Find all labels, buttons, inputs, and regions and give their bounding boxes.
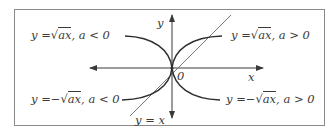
label-lhs: y =: [226, 92, 246, 106]
label-sign: −: [51, 92, 61, 106]
label-neg-sqrt-a-positive: y =−√ax, a > 0: [226, 94, 315, 106]
label-condition: , a < 0: [81, 92, 119, 106]
sqrt-function-diagram: y x 0 y = x y =√ax, a < 0 y =√ax, a > 0 …: [0, 0, 332, 134]
x-axis-label: x: [248, 72, 255, 84]
origin-point: [170, 66, 173, 69]
label-condition: , a > 0: [276, 92, 314, 106]
y-axis-label: y: [157, 18, 164, 30]
label-condition: , a < 0: [71, 28, 109, 42]
label-lhs: y =: [31, 92, 51, 106]
label-sqrt-a-positive: y =√ax, a > 0: [231, 30, 310, 42]
origin-label: 0: [177, 71, 184, 83]
label-radicand: ax: [258, 27, 271, 42]
label-radicand: ax: [68, 91, 81, 106]
curve-sqrt-a-positive: [172, 36, 222, 68]
curve-sqrt-a-negative: [125, 36, 172, 68]
label-radicand: ax: [263, 91, 276, 106]
label-lhs: y =: [31, 28, 51, 42]
label-sign: −: [246, 92, 256, 106]
line-y-equals-x: [130, 15, 231, 116]
label-sqrt-a-negative: y =√ax, a < 0: [31, 30, 110, 42]
label-condition: , a > 0: [271, 28, 309, 42]
line-y-equals-x-label: y = x: [135, 115, 165, 127]
curve-neg-sqrt-a-negative: [122, 68, 172, 100]
graph-canvas: [0, 0, 332, 134]
label-lhs: y =: [231, 28, 251, 42]
label-neg-sqrt-a-negative: y =−√ax, a < 0: [31, 94, 120, 106]
label-radicand: ax: [58, 27, 71, 42]
